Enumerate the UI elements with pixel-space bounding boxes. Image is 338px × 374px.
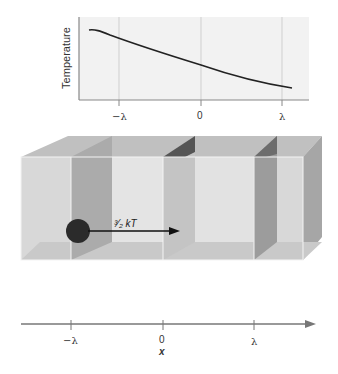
graph-tick-zero: 0 — [197, 110, 203, 121]
particle — [66, 219, 90, 243]
axis-tick-zero: 0 — [159, 334, 165, 345]
x-axis-label: x — [159, 346, 165, 357]
graph-tick-lambda: λ — [279, 111, 285, 122]
energy-label: ³⁄₂ kT — [114, 218, 137, 229]
x-axis — [0, 318, 338, 348]
gas-box — [0, 130, 338, 290]
axis-tick-neg-lambda: −λ — [63, 335, 78, 346]
graph-tick-neg-lambda: −λ — [112, 111, 127, 122]
y-axis-label: Temperature — [60, 27, 72, 89]
axis-tick-lambda: λ — [251, 336, 257, 347]
graph-canvas — [0, 0, 338, 130]
